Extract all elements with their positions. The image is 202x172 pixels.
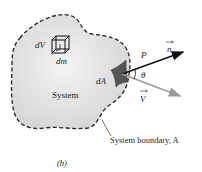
- theta-label: θ: [141, 70, 146, 80]
- boundary-label: System boundary, A: [110, 135, 179, 145]
- v-vector-overarrow-icon: [140, 90, 148, 92]
- system-diagram: dV dm System dA θ P n V System boundary,…: [0, 0, 202, 172]
- v-label: V: [140, 94, 147, 104]
- n-label: n: [167, 44, 172, 54]
- system-label: System: [52, 90, 79, 100]
- dm-label: dm: [56, 56, 68, 66]
- boundary-leader-line: [102, 120, 111, 136]
- boundary-label-text: System boundary, A: [110, 135, 179, 145]
- figure-label: (b): [57, 158, 67, 168]
- dv-label: dV: [35, 40, 47, 50]
- normal-vector-arrow: [122, 52, 183, 74]
- n-vector-overarrow-icon: [166, 41, 174, 43]
- angle-arc: [134, 70, 135, 80]
- da-label: dA: [96, 76, 107, 86]
- velocity-vector-arrow: [122, 74, 180, 96]
- pressure-label: P: [140, 50, 147, 60]
